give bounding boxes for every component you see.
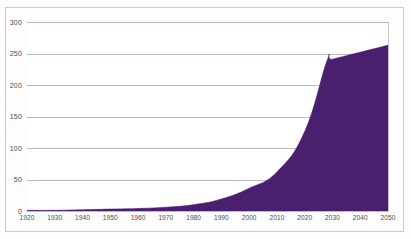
y-tick-label-200: 200	[0, 82, 22, 89]
area-series-svg	[27, 22, 388, 211]
y-tick-label-150: 150	[0, 113, 22, 120]
y-tick-label-100: 100	[0, 145, 22, 152]
gridline-0	[27, 211, 388, 212]
y-tick-label-0: 0	[0, 208, 22, 215]
plot-right-edge	[388, 22, 389, 212]
chart-figure: 300250200150100500 192019301940195019601…	[0, 0, 411, 239]
y-tick-label-300: 300	[0, 19, 22, 26]
x-tick-label-2050: 2050	[371, 215, 405, 222]
y-tick-label-50: 50	[0, 176, 22, 183]
area-series-path	[27, 45, 388, 211]
plot-area	[27, 22, 388, 211]
y-tick-label-250: 250	[0, 50, 22, 57]
